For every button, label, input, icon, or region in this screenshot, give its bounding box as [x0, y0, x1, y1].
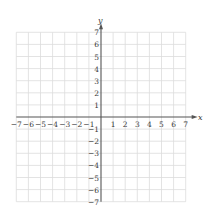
y-tick-label: −3 — [88, 149, 99, 158]
x-tick-label: 4 — [147, 120, 152, 129]
y-tick-label: 6 — [94, 40, 99, 49]
x-tick-label: −4 — [47, 120, 58, 129]
y-tick-label: −4 — [88, 161, 99, 170]
y-tick-label: 1 — [94, 101, 99, 110]
y-tick-label: −1 — [88, 125, 99, 134]
y-tick-label: −7 — [88, 198, 99, 207]
y-tick-label: −2 — [88, 137, 99, 146]
y-tick-label: 4 — [94, 65, 99, 74]
x-tick-label: 1 — [111, 120, 116, 129]
x-axis-label: x — [198, 113, 203, 122]
x-tick-label: −3 — [59, 120, 70, 129]
y-tick-label: 7 — [94, 28, 99, 37]
y-tick-label: 2 — [94, 89, 99, 98]
y-tick-label: 3 — [94, 77, 99, 86]
y-axis-label: y — [97, 16, 103, 25]
x-tick-labels: −7−6−5−4−3−2−11234567 — [11, 120, 189, 129]
coordinate-plane: −7−6−5−4−3−2−11234567 −7−6−5−4−3−2−11234… — [0, 0, 213, 216]
axes — [16, 23, 197, 201]
x-tick-label: 3 — [135, 120, 140, 129]
x-axis-arrow-icon — [192, 115, 198, 119]
x-tick-label: −5 — [35, 120, 46, 129]
y-tick-label: 5 — [94, 53, 99, 62]
y-tick-label: −5 — [88, 174, 99, 183]
x-tick-label: 7 — [183, 120, 188, 129]
x-tick-label: −7 — [11, 120, 22, 129]
x-tick-label: 2 — [123, 120, 128, 129]
x-tick-label: −2 — [71, 120, 82, 129]
x-tick-label: 6 — [171, 120, 176, 129]
x-tick-label: 5 — [159, 120, 164, 129]
y-tick-label: −6 — [88, 186, 99, 195]
x-tick-label: −6 — [23, 120, 34, 129]
